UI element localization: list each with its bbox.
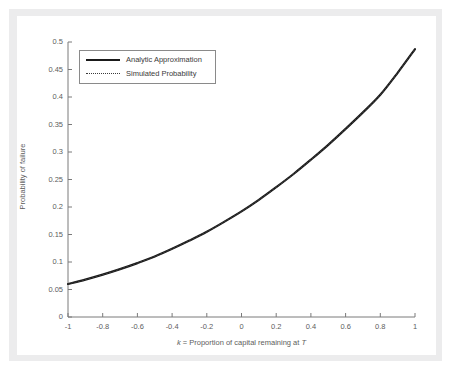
y-tick-label: 0.25 <box>37 175 63 184</box>
x-tick-label: 0.6 <box>334 322 358 331</box>
x-tick-label: 1 <box>403 322 427 331</box>
legend-label-analytic: Analytic Approximation <box>126 53 202 67</box>
x-tick-label: -0.2 <box>195 322 219 331</box>
x-tick-label: -0.4 <box>160 322 184 331</box>
y-axis-label: Probability of failure <box>18 117 27 237</box>
x-tick-label: -0.8 <box>91 322 115 331</box>
y-tick-label: 0.2 <box>37 202 63 211</box>
legend-swatch-dotted-line <box>86 73 120 74</box>
series-line-simulated <box>68 49 415 284</box>
legend-label-simulated: Simulated Probability <box>126 67 196 81</box>
y-tick-label: 0.35 <box>37 120 63 129</box>
x-tick-label: 0.8 <box>368 322 392 331</box>
y-tick-label: 0.1 <box>37 257 63 266</box>
chart-page: 00.050.10.150.20.250.30.350.40.450.5 -1-… <box>0 0 451 372</box>
y-tick-label: 0.05 <box>37 285 63 294</box>
series-line-analytic <box>68 49 415 284</box>
x-axis-label-middle: = Proportion of capital remaining at <box>181 338 302 347</box>
legend-item-simulated: Simulated Probability <box>80 67 215 81</box>
x-tick-label: -0.6 <box>125 322 149 331</box>
y-tick-label: 0.4 <box>37 92 63 101</box>
figure-canvas: 00.050.10.150.20.250.30.350.40.450.5 -1-… <box>0 0 451 372</box>
x-tick-label: 0 <box>230 322 254 331</box>
y-tick-label: 0.3 <box>37 147 63 156</box>
legend-swatch-solid-line <box>86 59 120 61</box>
x-axis-label-t: T <box>301 338 306 347</box>
y-tick-label: 0 <box>37 312 63 321</box>
legend-item-analytic: Analytic Approximation <box>80 53 215 67</box>
y-tick-label: 0.5 <box>37 37 63 46</box>
y-tick-label: 0.45 <box>37 65 63 74</box>
x-axis-label: k = Proportion of capital remaining at T <box>68 338 415 347</box>
x-tick-label: 0.2 <box>264 322 288 331</box>
y-tick-label: 0.15 <box>37 230 63 239</box>
chart-legend: Analytic Approximation Simulated Probabi… <box>79 50 216 84</box>
x-tick-label: -1 <box>56 322 80 331</box>
x-tick-label: 0.4 <box>299 322 323 331</box>
plot-svg <box>0 0 451 372</box>
